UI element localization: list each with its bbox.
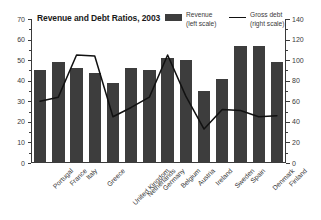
axis-tick-label: 140	[292, 16, 304, 23]
axis-tick-label: 40	[17, 77, 25, 84]
axis-tick	[28, 101, 32, 102]
axis-tick-label: 80	[292, 77, 300, 84]
axis-tick	[286, 81, 290, 82]
axis-tick-label: 40	[292, 118, 300, 125]
axis-minor-tick	[29, 29, 31, 30]
axis-tick-label: 120	[292, 36, 304, 43]
axis-tick-label: 50	[17, 57, 25, 64]
line-swatch-icon	[229, 17, 246, 18]
axis-tick	[28, 60, 32, 61]
axis-tick-label: 0	[21, 160, 25, 167]
axis-minor-tick	[286, 112, 288, 113]
axis-minor-tick	[29, 70, 31, 71]
axis-tick	[286, 40, 290, 41]
axis-minor-tick	[286, 70, 288, 71]
legend-label-revenue: Revenue	[186, 10, 216, 19]
category-label: Greece	[105, 167, 126, 188]
axis-minor-tick	[29, 132, 31, 133]
axis-minor-tick	[286, 50, 288, 51]
axis-tick-label: 60	[292, 98, 300, 105]
axis-tick-label: 100	[292, 57, 304, 64]
category-label: Ireland	[214, 167, 234, 187]
axis-tick	[28, 40, 32, 41]
axis-tick	[286, 101, 290, 102]
axis-tick-label: 60	[17, 36, 25, 43]
axis-tick-label: 20	[292, 139, 300, 146]
axis-tick-label: 30	[17, 98, 25, 105]
axis-tick-label: 10	[17, 139, 25, 146]
axis-minor-tick	[286, 91, 288, 92]
axis-minor-tick	[29, 112, 31, 113]
axis-tick	[28, 19, 32, 20]
axis-minor-tick	[29, 153, 31, 154]
axis-tick	[286, 60, 290, 61]
axis-tick	[286, 163, 290, 164]
plot-area	[31, 19, 286, 163]
axis-minor-tick	[286, 29, 288, 30]
axis-minor-tick	[29, 91, 31, 92]
chart-root: Revenue and Debt Ratios, 2003 Revenue (l…	[0, 0, 321, 220]
category-axis: PortugalFranceItalyGreeceUnited KingdomN…	[31, 165, 286, 217]
axis-tick	[28, 163, 32, 164]
axis-minor-tick	[286, 153, 288, 154]
legend-label-gross-debt: Gross debt	[250, 10, 284, 19]
axis-minor-tick	[286, 132, 288, 133]
axis-tick	[286, 142, 290, 143]
axis-tick-label: 70	[17, 16, 25, 23]
axis-tick-label: 0	[292, 160, 296, 167]
axis-tick	[28, 81, 32, 82]
axis-tick	[286, 19, 290, 20]
axis-tick-label: 20	[17, 118, 25, 125]
category-label: Italy	[84, 167, 98, 181]
axis-tick	[28, 142, 32, 143]
axis-minor-tick	[29, 50, 31, 51]
axis-tick	[28, 122, 32, 123]
axis-tick	[286, 122, 290, 123]
line-series-gross-debt	[31, 19, 286, 163]
